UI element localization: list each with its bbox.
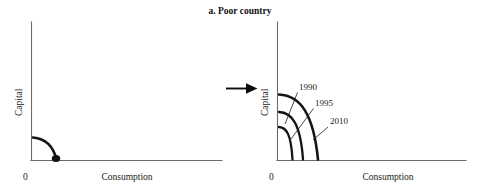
curve-label-1990: 1990	[299, 82, 318, 92]
right-panel: 1990 1995 2010 Capital Consumption 0	[260, 22, 466, 182]
figure-container: a. Poor country Capital Consumption 0	[0, 0, 481, 193]
right-origin-label: 0	[269, 172, 274, 182]
left-ppf-endpoint-dot	[52, 155, 60, 162]
right-y-axis-label: Capital	[260, 88, 270, 116]
left-panel: Capital Consumption 0	[14, 22, 222, 182]
transition-arrow-icon	[226, 83, 258, 94]
curve-label-2010: 2010	[330, 116, 349, 126]
figure-title: a. Poor country	[209, 6, 272, 16]
right-x-axis-label: Consumption	[362, 172, 413, 182]
right-ppf-curve-1990	[279, 127, 293, 160]
left-y-axis-label: Capital	[14, 88, 24, 116]
figure-svg: a. Poor country Capital Consumption 0	[0, 0, 481, 193]
right-ppf-curve-2010	[279, 95, 318, 160]
left-x-axis-label: Consumption	[101, 172, 152, 182]
leader-line-2010	[313, 127, 328, 140]
curve-label-1995: 1995	[315, 98, 334, 108]
left-origin-label: 0	[23, 172, 28, 182]
